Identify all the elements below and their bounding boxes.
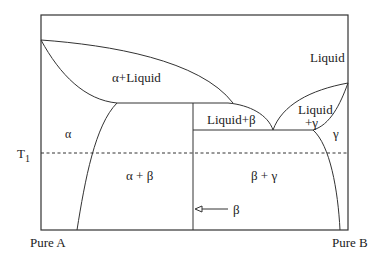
gamma-solvus-line [313, 130, 340, 230]
axis-label-pure-a: Pure A [30, 235, 66, 250]
t1-label-subscript: 1 [25, 153, 30, 164]
region-label-alpha-liquid: α+Liquid [112, 70, 161, 85]
t1-label-main: T [17, 146, 25, 161]
phase-diagram: Liquid α+Liquid Liquid+β Liquid +γ α γ α… [0, 0, 381, 256]
region-label-liquid-beta: Liquid+β [207, 112, 256, 127]
region-label-liquid-gamma-2: +γ [305, 115, 318, 130]
t1-label: T1 [17, 146, 30, 164]
region-label-gamma: γ [332, 126, 339, 141]
region-label-liquid: Liquid [310, 50, 345, 65]
alpha-solvus-line [77, 103, 117, 230]
region-label-beta-gamma: β + γ [251, 168, 277, 183]
region-label-alpha-beta: α + β [126, 168, 154, 183]
arrow-left-icon [195, 206, 202, 212]
region-label-alpha: α [65, 127, 72, 141]
diagram-frame [41, 15, 348, 230]
beta-phase-label: β [233, 202, 240, 217]
axis-label-pure-b: Pure B [332, 235, 368, 250]
solidus-left-line [41, 40, 117, 103]
